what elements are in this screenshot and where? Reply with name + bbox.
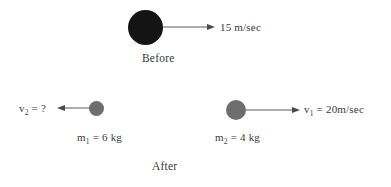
collision-diagram: 15 m/sec Before v2 = ? m1 = 6 kg v1 = 20… — [0, 0, 391, 187]
before-section-label: Before — [142, 52, 175, 65]
after-left-velocity-label: v2 = ? — [19, 102, 46, 115]
after-right-mass-symbol: m — [215, 131, 224, 143]
after-right-velocity-text: = 20m/sec — [314, 103, 364, 115]
after-right-velocity-arrow — [246, 103, 300, 117]
before-ball — [128, 10, 163, 45]
after-right-mass-text: = 4 kg — [228, 131, 260, 143]
after-left-velocity-text: = ? — [29, 102, 46, 114]
after-left-velocity-symbol: v — [19, 102, 25, 114]
before-velocity-label: 15 m/sec — [220, 21, 261, 34]
after-left-mass-label: m1 = 6 kg — [77, 131, 122, 144]
after-right-velocity-subscript: 1 — [310, 109, 314, 118]
after-left-ball — [89, 101, 104, 116]
after-left-mass-subscript: 1 — [86, 137, 90, 146]
after-left-velocity-subscript: 2 — [25, 108, 29, 117]
after-left-velocity-arrow — [57, 101, 90, 115]
after-left-mass-symbol: m — [77, 131, 86, 143]
after-right-mass-subscript: 2 — [224, 137, 228, 146]
after-right-velocity-symbol: v — [304, 103, 310, 115]
after-right-ball — [226, 100, 246, 120]
after-section-label: After — [152, 160, 177, 173]
after-right-mass-label: m2 = 4 kg — [215, 131, 260, 144]
after-left-mass-text: = 6 kg — [90, 131, 122, 143]
before-velocity-arrow — [163, 20, 215, 34]
after-right-velocity-label: v1 = 20m/sec — [304, 103, 364, 116]
